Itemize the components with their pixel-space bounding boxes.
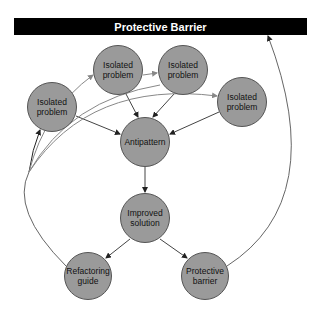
diagram: Protective Barrier Isolated problem Isol… [0, 0, 320, 318]
node-isolated-problem-4: Isolated problem [217, 77, 267, 127]
edge-iso4-anti [170, 112, 219, 134]
edge-impr-prot [160, 239, 187, 258]
node-improved-solution: Improved solution [120, 193, 170, 243]
curve-prot-bar [227, 36, 291, 266]
node-protective-barrier: Protective barrier [181, 252, 229, 300]
bar-title: Protective Barrier [114, 21, 206, 33]
node-isolated-problem-1: Isolated problem [27, 82, 77, 132]
node-refactoring-guide: Refactoring guide [64, 252, 112, 300]
node-isolated-problem-3: Isolated problem [158, 45, 208, 95]
node-isolated-problem-2: Isolated problem [93, 45, 143, 95]
edge-iso3-anti [153, 94, 174, 117]
edge-iso2-anti [126, 94, 138, 117]
curve-refa-origin [24, 172, 66, 266]
edge-iso2-iso3 [143, 73, 157, 75]
protective-barrier-bar: Protective Barrier [14, 18, 307, 35]
edge-impr-refa [106, 239, 130, 258]
node-antipattern: Antipattern [120, 117, 170, 167]
